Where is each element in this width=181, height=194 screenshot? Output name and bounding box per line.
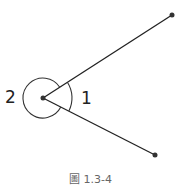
vertex-point bbox=[41, 96, 46, 101]
angle-1-label: 1 bbox=[81, 88, 92, 108]
acute-angle-arc bbox=[67, 82, 72, 111]
upper-endpoint bbox=[170, 13, 175, 18]
lower-ray bbox=[43, 98, 155, 155]
lower-endpoint bbox=[153, 153, 158, 158]
figure-caption: 圖 1.3-4 bbox=[0, 170, 181, 186]
angle-2-label: 2 bbox=[5, 87, 16, 107]
upper-ray bbox=[43, 15, 172, 98]
